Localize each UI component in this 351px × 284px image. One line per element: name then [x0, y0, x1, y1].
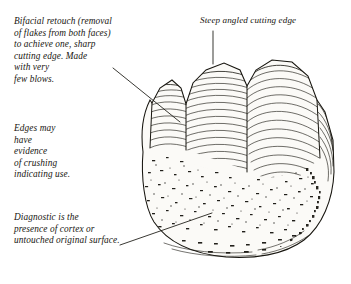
annotation-steep-angled-cutting-edge: Steep angled cutting edge [200, 15, 348, 27]
annotation-edges-crushing: Edges may have evidence of crushing indi… [14, 123, 126, 181]
annotation-bifacial-retouch: Bifacial retouch (removal of flakes from… [14, 16, 164, 86]
annotation-diagnostic-cortex: Diagnostic is the presence of cortex or … [14, 212, 160, 247]
